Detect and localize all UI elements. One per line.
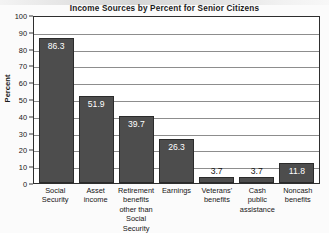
x-axis-tick-label-line: benefits xyxy=(198,195,236,204)
x-axis-tick-label-line: Noncash xyxy=(279,186,317,195)
x-axis-tick-label: Retirementbenefitsother thanSocial Secur… xyxy=(116,186,156,233)
x-axis-tick-label-line: Cash public xyxy=(238,186,276,205)
x-axis-tick-label: Cash publicassistance xyxy=(237,186,277,233)
plot-area: 86.351.939.726.33.73.711.8 xyxy=(33,16,320,184)
bar: 26.3 xyxy=(159,139,194,183)
bar-slot: 86.3 xyxy=(36,17,76,183)
bar: 11.8 xyxy=(279,163,314,183)
x-axis-tick-label-line: Asset xyxy=(76,186,114,195)
bar: 3.7 xyxy=(239,177,274,183)
bar-chart-figure: Income Sources by Percent for Senior Cit… xyxy=(0,0,329,233)
x-axis-tick-label-line: Social Security xyxy=(117,214,155,233)
y-axis-tick-label: 30 xyxy=(1,129,27,138)
bar-value-label: 26.3 xyxy=(160,143,193,152)
x-axis-tick-label: Noncashbenefits xyxy=(278,186,318,233)
x-axis-tick-label-line: Security xyxy=(36,195,74,204)
bar-value-label: 39.7 xyxy=(120,120,153,129)
x-axis-tick-label-line: Social xyxy=(36,186,74,195)
bar-slot: 39.7 xyxy=(116,17,156,183)
y-axis-tick-label: 40 xyxy=(1,112,27,121)
bar: 86.3 xyxy=(39,38,74,183)
x-axis-tick-label-line: income xyxy=(76,195,114,204)
x-axis-tick-label-line: other than xyxy=(117,205,155,214)
x-axis-tick-label-line: Earnings xyxy=(157,186,195,195)
bar-series: 86.351.939.726.33.73.711.8 xyxy=(34,17,319,183)
y-axis-tick-label: 80 xyxy=(1,45,27,54)
bar-value-label: 3.7 xyxy=(200,167,233,176)
bar-slot: 3.7 xyxy=(197,17,237,183)
y-axis-tick-label: 50 xyxy=(1,96,27,105)
x-axis-tick-label-line: Veterans' xyxy=(198,186,236,195)
bar-value-label: 86.3 xyxy=(40,42,73,51)
bar-slot: 51.9 xyxy=(76,17,116,183)
y-axis-tick-label: 70 xyxy=(1,62,27,71)
y-axis-tick-labels: 1009080706050403020100 xyxy=(0,16,30,184)
x-axis-tick-label-line: benefits xyxy=(279,195,317,204)
bar: 51.9 xyxy=(79,96,114,183)
y-axis-tick-label: 100 xyxy=(1,12,27,21)
bar: 3.7 xyxy=(199,177,234,183)
bar: 39.7 xyxy=(119,116,154,183)
x-axis-tick-label: Assetincome xyxy=(75,186,115,233)
x-axis-tick-label: SocialSecurity xyxy=(35,186,75,233)
x-axis-tick-label: Earnings xyxy=(156,186,196,233)
x-axis-tick-label-line: benefits xyxy=(117,195,155,204)
x-axis-tick-label-line: assistance xyxy=(238,205,276,214)
y-axis-tick-label: 60 xyxy=(1,79,27,88)
y-axis-tick-label: 20 xyxy=(1,146,27,155)
bar-value-label: 11.8 xyxy=(280,167,313,176)
y-axis-tick-label: 10 xyxy=(1,163,27,172)
bar-slot: 26.3 xyxy=(156,17,196,183)
bar-value-label: 51.9 xyxy=(80,100,113,109)
y-axis-tick-label: 90 xyxy=(1,28,27,37)
bar-slot: 11.8 xyxy=(277,17,317,183)
bar-value-label: 3.7 xyxy=(240,167,273,176)
bar-slot: 3.7 xyxy=(237,17,277,183)
x-axis-tick-label: Veterans'benefits xyxy=(197,186,237,233)
chart-title: Income Sources by Percent for Senior Cit… xyxy=(0,4,329,13)
x-axis-tick-label-line: Retirement xyxy=(117,186,155,195)
x-axis-tick-labels: SocialSecurityAssetincomeRetirementbenef… xyxy=(33,186,320,233)
y-axis-tick-label: 0 xyxy=(1,180,27,189)
